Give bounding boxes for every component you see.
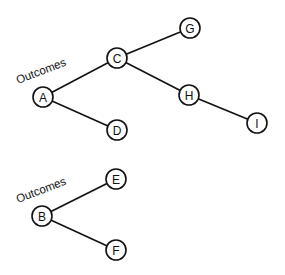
node-label: B (38, 210, 46, 224)
node-c: C (107, 48, 127, 68)
node-label: H (185, 89, 194, 103)
edge-b-f (42, 216, 116, 250)
node-h: H (179, 85, 199, 105)
node-label: F (112, 244, 119, 258)
node-e: E (106, 169, 126, 189)
edge-c-g (117, 28, 190, 58)
node-i: I (247, 113, 267, 133)
edge-h-i (189, 95, 257, 123)
node-label: A (39, 91, 47, 105)
node-label: E (112, 173, 120, 187)
labels-layer: OutcomesOutcomes (14, 56, 67, 205)
edges-layer (42, 28, 257, 250)
edge-c-h (117, 58, 189, 95)
node-d: D (107, 120, 127, 140)
nodes-layer: ACDGHIBEF (32, 18, 267, 260)
node-f: F (106, 240, 126, 260)
outcomes-label: Outcomes (14, 175, 67, 205)
node-b: B (32, 206, 52, 226)
node-g: G (180, 18, 200, 38)
tree-diagram: ACDGHIBEF OutcomesOutcomes (0, 0, 285, 275)
node-a: A (33, 87, 53, 107)
node-label: D (113, 124, 122, 138)
node-label: G (185, 22, 194, 36)
node-label: C (113, 52, 122, 66)
node-label: I (255, 117, 258, 131)
outcomes-label: Outcomes (14, 56, 67, 86)
edge-a-d (43, 97, 117, 130)
